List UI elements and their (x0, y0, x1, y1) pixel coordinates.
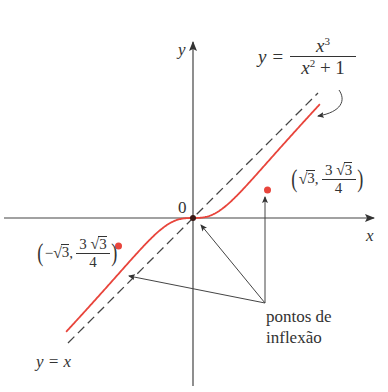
asymptote-label: y = x (36, 352, 71, 372)
sqrt-3: √3 (299, 170, 315, 188)
inflection-point-right (264, 187, 271, 194)
y-fraction: 3 √3 4 (76, 236, 110, 270)
paren-close: ) (111, 238, 117, 268)
formula-pointer-arrow (318, 90, 342, 116)
point-left-label: ( − √3 , 3 √3 4 ) (36, 236, 119, 270)
formula-denominator-exp: 2 (310, 57, 316, 69)
comma: , (315, 171, 319, 188)
formula-denominator-rest: + 1 (320, 58, 345, 79)
formula-numerator-exp: 3 (324, 35, 330, 47)
origin-label: 0 (178, 198, 187, 218)
paren-close: ) (357, 164, 363, 194)
inflection-note: pontos de inflexão (266, 306, 332, 348)
inflection-pointers (129, 197, 265, 303)
formula-lhs: y = (258, 46, 284, 68)
formula-denominator-base: x (301, 58, 309, 79)
inflection-note-line1: pontos de (266, 306, 332, 327)
minus-sign: − (45, 245, 53, 262)
inflection-point-origin (190, 215, 196, 221)
paren-open: ( (37, 238, 43, 268)
comma: , (69, 245, 73, 262)
point-right-label: ( √3 , 3 √3 4 ) (290, 162, 364, 196)
y-axis-label: y (178, 40, 186, 60)
function-formula: y = x3 x2 + 1 (258, 36, 356, 78)
y-fraction: 3 √3 4 (322, 162, 356, 196)
paren-open: ( (291, 164, 297, 194)
x-axis-label: x (366, 226, 374, 246)
formula-fraction: x3 x2 + 1 (290, 36, 356, 78)
sqrt-3: √3 (53, 244, 69, 262)
inflection-note-line2: inflexão (266, 327, 332, 348)
